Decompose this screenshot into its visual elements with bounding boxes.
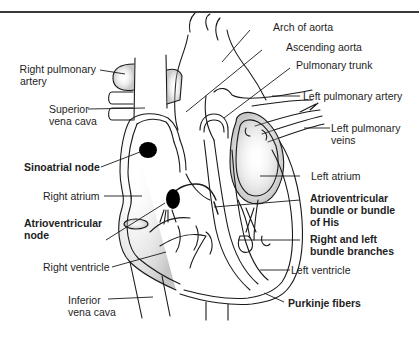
left-atrium-wall bbox=[230, 112, 283, 203]
label-inferior-vena-cava-line2: vena cava bbox=[68, 306, 116, 318]
label-superior-vena-cava-line1: Superior bbox=[49, 103, 89, 115]
label-av-bundle-line2: bundle or bundle bbox=[310, 204, 395, 216]
label-bundle-branches-line1: Right and left bbox=[310, 233, 377, 245]
av-bundle-line bbox=[214, 202, 218, 214]
label-right-pulmonary-artery-line2: artery bbox=[20, 75, 47, 87]
label-left-pulmonary-artery: Left pulmonary artery bbox=[303, 90, 402, 102]
label-left-pulmonary-veins-line1: Left pulmonary bbox=[331, 122, 400, 134]
brachiocephalic-vessel bbox=[189, 13, 195, 32]
label-arch-of-aorta: Arch of aorta bbox=[273, 21, 333, 33]
label-right-ventricle: Right ventricle bbox=[43, 261, 110, 273]
sinoatrial-node bbox=[139, 142, 157, 158]
label-av-bundle-line3: of His bbox=[310, 216, 339, 228]
label-left-atrium: Left atrium bbox=[311, 170, 361, 182]
label-purkinje-fibers: Purkinje fibers bbox=[288, 297, 361, 309]
label-ascending-aorta: Ascending aorta bbox=[286, 41, 362, 53]
label-pulmonary-trunk: Pulmonary trunk bbox=[296, 59, 372, 71]
label-av-bundle-line1: Atrioventricular bbox=[310, 192, 388, 204]
label-av-node-line1: Atrioventricular bbox=[24, 217, 102, 229]
superior-vena-cava bbox=[134, 55, 167, 120]
label-right-atrium: Right atrium bbox=[43, 190, 100, 202]
atrioventricular-node bbox=[166, 189, 180, 209]
label-inferior-vena-cava-line1: Inferior bbox=[68, 294, 101, 306]
label-left-ventricle: Left ventricle bbox=[291, 264, 351, 276]
label-av-node-line2: node bbox=[24, 229, 49, 241]
label-superior-vena-cava-line2: vena cava bbox=[49, 115, 97, 127]
label-left-pulmonary-veins-line2: veins bbox=[331, 134, 356, 146]
label-bundle-branches-line2: bundle branches bbox=[310, 245, 394, 257]
label-right-pulmonary-artery-line1: Right pulmonary bbox=[20, 63, 96, 75]
label-sinoatrial-node: Sinoatrial node bbox=[24, 161, 100, 173]
